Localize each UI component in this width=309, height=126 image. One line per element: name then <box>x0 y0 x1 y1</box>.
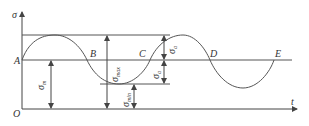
sigma-m-label: σm <box>35 80 47 90</box>
svg-text:σm: σm <box>35 80 47 90</box>
origin-label: O <box>13 108 20 119</box>
stress-curve <box>22 35 274 88</box>
sigma-a-upper-label: σa <box>166 46 178 54</box>
stress-cycle-diagram: σ t O A B C D E σm σmax σmin σa σa <box>0 0 309 126</box>
point-d-label: D <box>209 48 218 59</box>
svg-text:σa: σa <box>150 71 162 79</box>
point-b-label: B <box>90 48 96 59</box>
point-e-label: E <box>274 48 281 59</box>
sigma-a-lower-label: σa <box>150 71 162 79</box>
point-c-label: C <box>139 48 146 59</box>
t-axis-label: t <box>291 96 294 107</box>
sigma-min-label: σmin <box>120 93 132 107</box>
svg-text:σmin: σmin <box>120 93 132 107</box>
sigma-max-label: σmax <box>109 67 121 82</box>
svg-text:σa: σa <box>166 46 178 54</box>
y-axis-label: σ <box>12 9 18 20</box>
point-a-label: A <box>13 55 21 66</box>
svg-text:σmax: σmax <box>109 67 121 82</box>
